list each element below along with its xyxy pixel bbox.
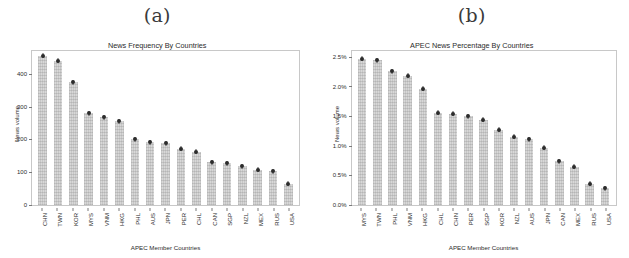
x-tick-label: MYS [88,213,94,226]
x-tick-mark [88,208,89,211]
bar-can [207,162,216,205]
data-point-marker [225,161,229,165]
x-tick-mex: MEX [251,208,266,244]
panel-b-x-axis-ticks: MYSTWNPHLVNMHKGCHLCHNPERSGPKORNZLAUSJPNC… [351,208,617,244]
x-tick-mark [605,208,606,211]
x-tick-mark [590,208,591,211]
data-point-marker [71,80,75,84]
y-tick-label: 200 [17,136,32,142]
x-tick-mark [258,208,259,211]
x-tick-mark [289,208,290,211]
bar-item [265,51,280,205]
data-point-marker [481,118,485,122]
data-point-marker [375,58,379,62]
x-tick-mark [498,208,499,211]
y-tick-label: 400 [17,71,32,77]
x-tick-label: KOR [499,213,505,226]
bar-vnm [100,117,109,205]
bar-item [50,51,65,205]
panel-a-plot-frame: 0100200300400 [31,50,300,206]
bar-phl [131,139,140,205]
data-point-marker [164,141,168,145]
data-point-marker [603,186,607,190]
x-tick-mark [57,208,58,211]
x-tick-mark [103,208,104,211]
bar-per [177,149,186,205]
bar-mys [358,59,366,205]
bar-item [430,51,445,205]
x-tick-label: PER [468,213,474,225]
bar-item [235,51,250,205]
panel-a: (a) News Frequency By Countries News vol… [0,0,315,258]
data-point-marker [179,147,183,151]
data-point-marker [557,159,561,163]
bar-item [81,51,96,205]
bar-kor [494,130,502,205]
x-tick-mark [273,208,274,211]
bar-hkg [115,121,124,205]
bar-item [189,51,204,205]
bar-usa [284,184,293,205]
y-tick-label: 2.0% [333,84,352,90]
y-tick-label: 0.0% [333,202,352,208]
x-tick-label: PER [181,213,187,225]
bar-item [370,51,385,205]
x-tick-label: AUS [150,213,156,225]
bar-twn [373,60,381,205]
y-tick-label: 100 [17,169,32,175]
x-tick-mark [196,208,197,211]
bar-phl [388,71,396,205]
panel-a-caption: (a) [0,6,315,25]
data-point-marker [117,119,121,123]
data-point-marker [271,169,275,173]
x-tick-mark [575,208,576,211]
y-tick-label: 0.5% [333,172,352,178]
bar-nzl [510,137,518,205]
x-tick-label: NZL [243,213,249,224]
panel-b: (b) APEC News Percentage By Countries Ne… [315,0,629,258]
x-tick-usa: USA [598,208,613,244]
bar-item [415,51,430,205]
x-tick-twn: TWN [369,208,384,244]
bar-chl [192,152,201,205]
bar-item [112,51,127,205]
data-point-marker [133,137,137,141]
x-tick-mark [376,208,377,211]
x-tick-phl: PHL [127,208,142,244]
panel-a-bar-series [32,51,299,205]
x-tick-twn: TWN [49,208,64,244]
data-point-marker [406,74,410,78]
x-tick-chl: CHL [430,208,445,244]
x-tick-mark [483,208,484,211]
x-tick-mark [165,208,166,211]
x-tick-label: CHL [196,213,202,225]
bar-item [461,51,476,205]
bar-item [127,51,142,205]
bar-item [96,51,111,205]
x-tick-phl: PHL [384,208,399,244]
bar-item [537,51,552,205]
x-tick-kor: KOR [65,208,80,244]
bar-item [567,51,582,205]
x-tick-aus: AUS [522,208,537,244]
x-tick-label: SGP [227,213,233,226]
bar-item [521,51,536,205]
x-tick-hkg: HKG [415,208,430,244]
bar-jpn [161,143,170,205]
x-tick-mark [227,208,228,211]
bar-chn [38,56,47,205]
x-tick-label: CAN [212,213,218,226]
y-tick-label: 1.0% [333,143,352,149]
x-tick-label: AUS [529,213,535,225]
panel-b-caption: (b) [315,6,629,25]
x-tick-label: MYS [361,213,367,226]
x-tick-label: JPN [545,213,551,224]
y-tick-label: 2.5% [333,54,352,60]
data-point-marker [466,114,470,118]
x-tick-hkg: HKG [111,208,126,244]
x-tick-label: JPN [165,213,171,224]
bar-hkg [419,89,427,205]
x-tick-rus: RUS [266,208,281,244]
bar-jpn [540,148,548,205]
bar-aus [146,142,155,205]
